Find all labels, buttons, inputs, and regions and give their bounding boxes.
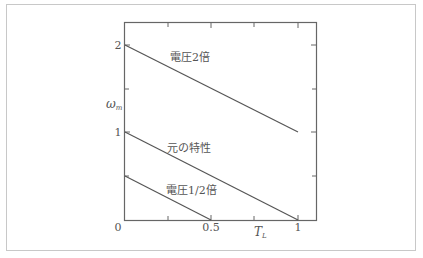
annotation-voltage-half: 電圧1/2倍: [166, 183, 217, 197]
x-tick-label-05: 0.5: [202, 221, 220, 234]
x-axis-label: TL: [254, 225, 267, 240]
x-tick-label-1: 1: [295, 221, 302, 234]
annotation-voltage-double: 電圧2倍: [170, 50, 210, 64]
y-tick-label-2: 2: [115, 39, 122, 52]
annotation-original: 元の特性: [167, 141, 211, 155]
y-axis-label: ωm: [106, 97, 123, 112]
x-tick-label-0: 0: [115, 221, 122, 234]
series-voltage-double: [125, 45, 298, 132]
series-original: [125, 132, 298, 220]
y-tick-label-1: 1: [115, 126, 122, 139]
y-ticks: [125, 45, 316, 176]
chart-svg: 2 1 0 0.5 1 ωm TL 電圧2倍 元の特性 電圧1/2倍: [0, 0, 423, 258]
series-voltage-half: [125, 176, 211, 220]
